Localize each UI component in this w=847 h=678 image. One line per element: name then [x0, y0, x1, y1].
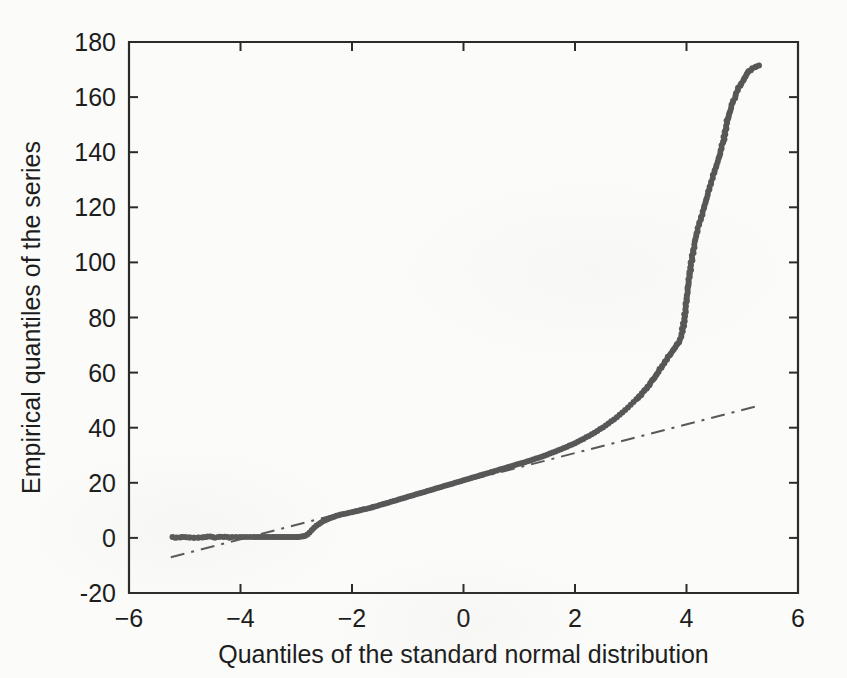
x-tick-label: 0	[457, 604, 471, 632]
data-point	[756, 62, 762, 68]
x-tick-label: 2	[568, 604, 582, 632]
y-tick-label: 120	[74, 193, 116, 221]
y-tick-label: 20	[88, 469, 116, 497]
y-tick-label: 80	[88, 304, 116, 332]
y-axis-title: Empirical quantiles of the series	[17, 141, 45, 494]
qq-plot-figure: -20020406080100120140160180−6−4−20246Qua…	[0, 0, 847, 678]
y-tick-label: 180	[74, 28, 116, 56]
qq-plot-canvas: -20020406080100120140160180−6−4−20246Qua…	[0, 0, 847, 678]
scatter-series	[169, 62, 761, 540]
y-tick-label: 100	[74, 248, 116, 276]
x-tick-label: −2	[338, 604, 367, 632]
axis-box	[129, 42, 798, 593]
y-tick-label: 60	[88, 359, 116, 387]
y-tick-label: 160	[74, 83, 116, 111]
y-tick-label: 0	[102, 524, 116, 552]
x-axis-title: Quantiles of the standard normal distrib…	[218, 640, 709, 668]
y-tick-label: 140	[74, 138, 116, 166]
y-tick-label: -20	[80, 579, 116, 607]
x-tick-label: 6	[791, 604, 805, 632]
y-tick-label: 40	[88, 414, 116, 442]
x-tick-label: −4	[226, 604, 255, 632]
x-tick-label: 4	[680, 604, 694, 632]
x-tick-label: −6	[115, 604, 144, 632]
